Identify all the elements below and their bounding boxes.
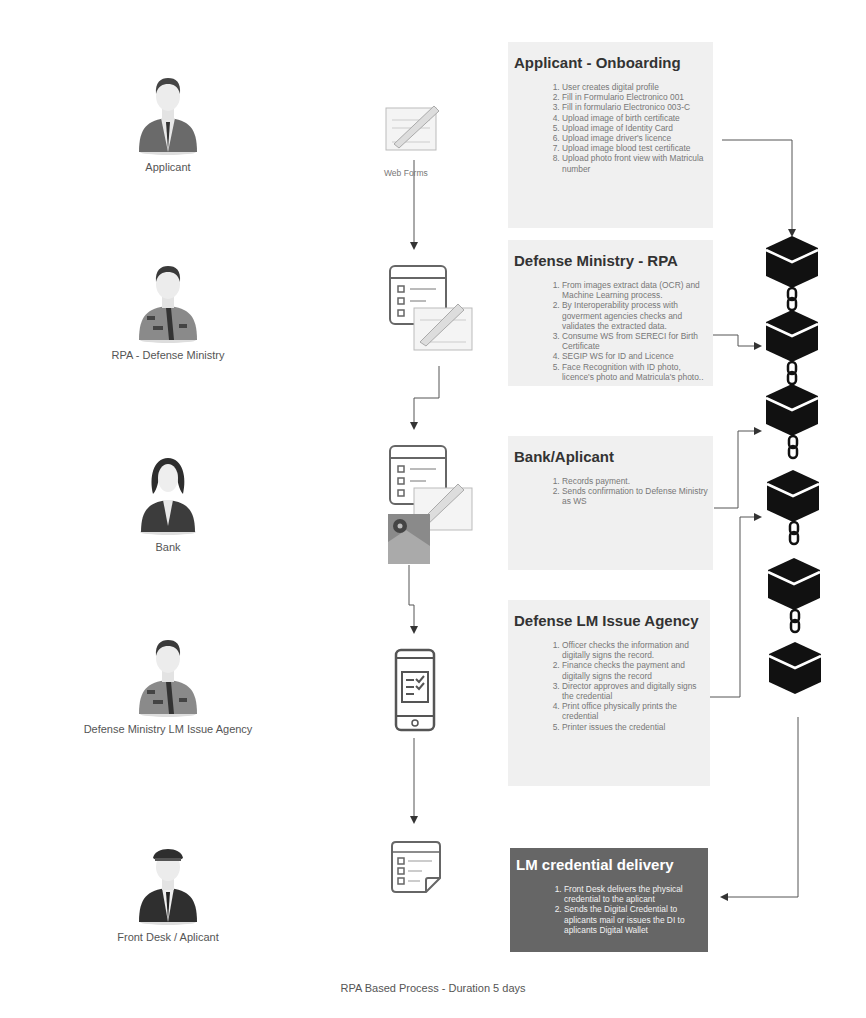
step-item: Print office physically prints the crede…: [562, 701, 706, 721]
businesswoman-avatar-icon: [133, 450, 203, 535]
flow-arrow-3: [409, 565, 414, 632]
card-defense-ministry-rpa: Defense Ministry - RPA From images extra…: [508, 240, 713, 386]
web-form-icon: [384, 100, 444, 155]
card-title: Applicant - Onboarding: [514, 54, 681, 71]
card-bank-aplicant: Bank/Aplicant Records payment. Sends con…: [508, 436, 713, 570]
checklist-note-icon: [388, 840, 444, 894]
step-item: Upload image driver's licence: [562, 133, 709, 143]
step-item: Printer issues the credential: [562, 722, 706, 732]
card-steps: Officer checks the information and digit…: [552, 640, 706, 732]
businessman-avatar-icon: [133, 70, 203, 155]
step-item: Sends the Digital Credential to aplicant…: [564, 904, 704, 935]
step-item: Upload image of birth certificate: [562, 113, 709, 123]
blockchain-block-icon: [769, 642, 821, 694]
actor-label: RPA - Defense Ministry: [48, 349, 288, 361]
step-item: Upload image of Identity Card: [562, 123, 709, 133]
chain-link-icon: [791, 610, 799, 632]
step-item: Sends confirmation to Defense Ministry a…: [562, 486, 709, 506]
pilot-avatar-icon: [133, 840, 203, 925]
card-title: LM credential delivery: [516, 856, 674, 873]
step-item: Records payment.: [562, 476, 709, 486]
blockchain-block-icon: [766, 236, 818, 288]
card-title: Defense Ministry - RPA: [514, 252, 678, 269]
actor-label: Applicant: [48, 161, 288, 173]
checklist-and-form-icon: [386, 262, 476, 367]
chain-link-icon: [788, 288, 796, 310]
blockchain-block-icon: [767, 470, 819, 522]
step-item: By Interoperability process with goverme…: [562, 300, 709, 331]
actor-defense-ministry-lm-issue-agency: Defense Ministry LM Issue Agency: [48, 632, 288, 735]
actor-front-desk-aplicant: Front Desk / Aplicant: [48, 840, 288, 943]
diagram-caption: RPA Based Process - Duration 5 days: [0, 982, 866, 994]
actor-rpa-defense-ministry: RPA - Defense Ministry: [48, 258, 288, 361]
step-item: Fill in Formulario Electronico 001: [562, 92, 709, 102]
step-item: Officer checks the information and digit…: [562, 640, 706, 660]
blockchain-block-icon: [766, 384, 818, 436]
actor-label: Bank: [48, 541, 288, 553]
card-steps: From images extract data (OCR) and Machi…: [552, 280, 709, 382]
step-item: Face Recognition with ID photo, licence'…: [562, 362, 709, 382]
step-item: SEGIP WS for ID and Licence: [562, 351, 709, 361]
step-item: User creates digital profile: [562, 82, 709, 92]
connector-rpa: [710, 335, 760, 346]
step-item: Finance checks the payment and digitally…: [562, 660, 706, 680]
actor-label: Front Desk / Aplicant: [48, 931, 288, 943]
connector-bank: [714, 431, 760, 508]
connector-onboarding: [722, 140, 792, 235]
card-steps: User creates digital profile Fill in For…: [552, 82, 709, 174]
blockchain-block-icon: [766, 310, 818, 362]
step-item: Upload photo front view with Matricula n…: [562, 153, 709, 173]
blockchain-block-icon: [768, 558, 820, 610]
actor-bank: Bank: [48, 450, 288, 553]
chain-link-icon: [789, 436, 797, 458]
flow-arrow-2: [414, 366, 439, 428]
chain-link-icon: [790, 522, 798, 544]
blockchain: [755, 236, 835, 736]
card-lm-credential-delivery: LM credential delivery Front Desk delive…: [510, 848, 708, 952]
step-item: Director approves and digitally signs th…: [562, 681, 706, 701]
card-steps: Records payment. Sends confirmation to D…: [552, 476, 709, 507]
step-item: Fill in formulario Electronico 003-C: [562, 102, 709, 112]
card-title: Defense LM Issue Agency: [514, 612, 699, 629]
actor-label: Defense Ministry LM Issue Agency: [48, 723, 288, 735]
step-item: Front Desk delivers the physical credent…: [564, 884, 704, 904]
actor-applicant: Applicant: [48, 70, 288, 173]
officer-avatar-icon: [133, 258, 203, 343]
connector-agency: [708, 517, 760, 697]
step-item: Consume WS from SERECI for Birth Certifi…: [562, 331, 709, 351]
card-steps: Front Desk delivers the physical credent…: [554, 884, 704, 935]
card-applicant-onboarding: Applicant - Onboarding User creates digi…: [508, 42, 713, 228]
web-forms-label: Web Forms: [384, 168, 428, 178]
officer-avatar-icon: [133, 632, 203, 717]
connector-delivery: [722, 717, 798, 897]
step-item: Upload image blood test certificate: [562, 143, 709, 153]
checklist-form-map-icon: [386, 442, 476, 567]
card-title: Bank/Aplicant: [514, 448, 614, 465]
step-item: From images extract data (OCR) and Machi…: [562, 280, 709, 300]
card-defense-lm-issue-agency: Defense LM Issue Agency Officer checks t…: [508, 600, 710, 786]
mobile-checklist-icon: [394, 648, 436, 732]
chain-link-icon: [788, 362, 796, 384]
